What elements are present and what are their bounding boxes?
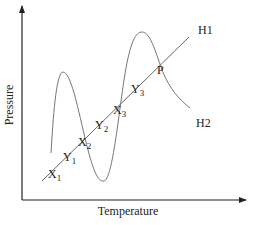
h1-label: H1 xyxy=(198,23,213,37)
point-y2-label: Y2 xyxy=(95,118,108,134)
h2-label: H2 xyxy=(196,116,211,130)
pressure-temperature-diagram: H1 H2 P X1 Y1 X2 Y2 X3 Y3 Temperature Pr… xyxy=(0,0,255,225)
intersection-p-label: P xyxy=(157,63,164,77)
y-axis-label: Pressure xyxy=(2,85,16,126)
point-x1-label: X1 xyxy=(48,167,61,183)
point-x2-label: X2 xyxy=(78,135,91,151)
x-axis-label: Temperature xyxy=(98,204,158,218)
point-x3-label: X3 xyxy=(113,103,127,119)
point-y1-label: Y1 xyxy=(63,150,76,166)
point-y3-label: Y3 xyxy=(131,82,145,98)
